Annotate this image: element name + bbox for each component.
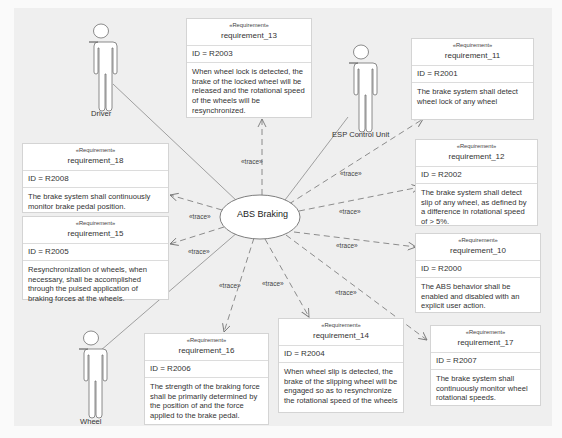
requirement-12-box[interactable]: «Requirement»requirement_12 ID = R2002 T… bbox=[415, 139, 538, 226]
trace-label-r13: «trace» bbox=[241, 158, 263, 165]
requirement-text: The brake system shall continuously moni… bbox=[23, 188, 168, 215]
stereotype: «Requirement» bbox=[25, 147, 166, 154]
actor-driver-label[interactable]: Driver bbox=[91, 109, 111, 118]
requirement-13-box[interactable]: «Requirement»requirement_13 ID = R2003 W… bbox=[186, 18, 312, 118]
actor-esp-icon bbox=[349, 45, 377, 132]
stereotype: «Requirement» bbox=[189, 22, 309, 29]
trace-r18 bbox=[170, 195, 222, 210]
trace-label-r14: «trace» bbox=[262, 280, 284, 287]
stereotype: «Requirement» bbox=[414, 42, 531, 49]
use-case-label[interactable]: ABS Braking bbox=[237, 209, 288, 219]
requirement-16-box[interactable]: «Requirement»requirement_16 ID = R2006 T… bbox=[144, 333, 269, 425]
requirement-18-box[interactable]: «Requirement»requirement_18 ID = R2008 T… bbox=[22, 143, 169, 213]
requirement-text: When wheel slip is detected, the brake o… bbox=[279, 363, 403, 410]
actor-wheel-icon bbox=[79, 331, 107, 418]
trace-r15 bbox=[170, 227, 224, 244]
requirement-id: ID = R2006 bbox=[145, 361, 268, 378]
stereotype: «Requirement» bbox=[147, 337, 266, 344]
stereotype: «Requirement» bbox=[418, 237, 538, 244]
trace-label-r15: «trace» bbox=[188, 248, 210, 255]
requirement-name: requirement_10 bbox=[418, 246, 538, 256]
stereotype: «Requirement» bbox=[418, 143, 535, 150]
requirement-14-box[interactable]: «Requirement»requirement_14 ID = R2004 W… bbox=[278, 318, 404, 413]
requirement-name: requirement_14 bbox=[281, 331, 401, 341]
stereotype: «Requirement» bbox=[25, 220, 166, 227]
requirement-text: The brake system shall continuously moni… bbox=[431, 370, 540, 407]
requirement-name: requirement_16 bbox=[147, 346, 266, 356]
requirement-id: ID = R2002 bbox=[416, 167, 537, 184]
requirement-10-box[interactable]: «Requirement»requirement_10 ID = R2000 T… bbox=[415, 233, 541, 313]
requirement-name: requirement_12 bbox=[418, 152, 535, 162]
requirement-name: requirement_18 bbox=[25, 156, 166, 166]
requirement-11-box[interactable]: «Requirement»requirement_11 ID = R2001 T… bbox=[411, 38, 534, 120]
requirement-id: ID = R2003 bbox=[187, 46, 311, 63]
requirement-id: ID = R2004 bbox=[279, 346, 403, 363]
trace-label-r10: «trace» bbox=[336, 242, 358, 249]
requirement-text: The ABS behavior shall be enabled and di… bbox=[416, 278, 540, 315]
requirement-id: ID = R2001 bbox=[412, 66, 533, 83]
requirement-name: requirement_15 bbox=[25, 229, 166, 239]
trace-r14 bbox=[265, 239, 309, 317]
requirement-text: The strength of the braking force shall … bbox=[145, 378, 268, 425]
requirement-name: requirement_11 bbox=[414, 51, 531, 61]
actor-wheel-label[interactable]: Wheel bbox=[80, 417, 102, 426]
trace-label-r17: «trace» bbox=[335, 289, 357, 296]
requirement-text: When wheel lock is detected, the brake o… bbox=[187, 63, 311, 120]
requirement-17-box[interactable]: «Requirement»requirement_17 ID = R2007 T… bbox=[430, 325, 541, 406]
trace-label-r16: «trace» bbox=[219, 282, 241, 289]
stereotype: «Requirement» bbox=[433, 329, 538, 336]
requirement-id: ID = R2008 bbox=[23, 171, 168, 188]
requirement-15-box[interactable]: «Requirement»requirement_15 ID = R2005 R… bbox=[22, 216, 169, 300]
trace-label-r11: «trace» bbox=[340, 170, 362, 177]
requirement-text: Resynchronization of wheels, when necess… bbox=[23, 261, 168, 308]
actor-driver-icon bbox=[89, 24, 117, 111]
requirement-id: ID = R2000 bbox=[416, 261, 540, 278]
trace-label-r12: «trace» bbox=[339, 208, 361, 215]
actor-esp-label[interactable]: ESP Control Unit bbox=[332, 130, 389, 139]
requirement-text: The brake system shall detect wheel lock… bbox=[412, 83, 533, 110]
stereotype: «Requirement» bbox=[281, 322, 401, 329]
requirement-name: requirement_13 bbox=[189, 31, 309, 41]
requirement-name: requirement_17 bbox=[433, 338, 538, 348]
trace-label-r18: «trace» bbox=[189, 213, 211, 220]
requirement-id: ID = R2005 bbox=[23, 244, 168, 261]
requirement-text: The brake system shall detect slip of an… bbox=[416, 184, 537, 231]
requirement-id: ID = R2007 bbox=[431, 353, 540, 370]
